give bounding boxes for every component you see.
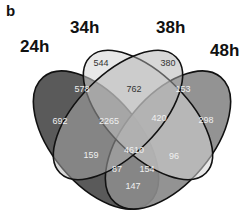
count-only-34h: 544 (93, 58, 108, 68)
count-all-four: 4610 (124, 145, 144, 155)
set-label-34h: 34h (70, 18, 99, 37)
count-34h-48h: 96 (169, 151, 179, 161)
panel-label: b (6, 2, 15, 19)
count-34h-38h-48h: 420 (151, 113, 166, 123)
count-24h-34h: 578 (74, 84, 89, 94)
set-label-48h: 48h (210, 41, 239, 60)
count-only-24h: 692 (52, 116, 67, 126)
set-label-24h: 24h (20, 37, 49, 56)
count-34h-38h: 762 (126, 84, 141, 94)
count-24h-38h-48h: 87 (112, 164, 122, 174)
count-only-38h: 380 (160, 58, 175, 68)
count-24h-48h: 147 (125, 181, 140, 191)
set-label-38h: 38h (156, 18, 185, 37)
count-24h-38h: 159 (83, 150, 98, 160)
count-24h-34h-48h: 154 (139, 164, 154, 174)
count-only-48h: 298 (198, 115, 213, 125)
count-24h-34h-38h: 2265 (99, 116, 119, 126)
count-38h-48h: 153 (175, 84, 190, 94)
venn-diagram: b 24h 34h 38h 48h 544 380 578 762 153 69… (0, 0, 251, 212)
